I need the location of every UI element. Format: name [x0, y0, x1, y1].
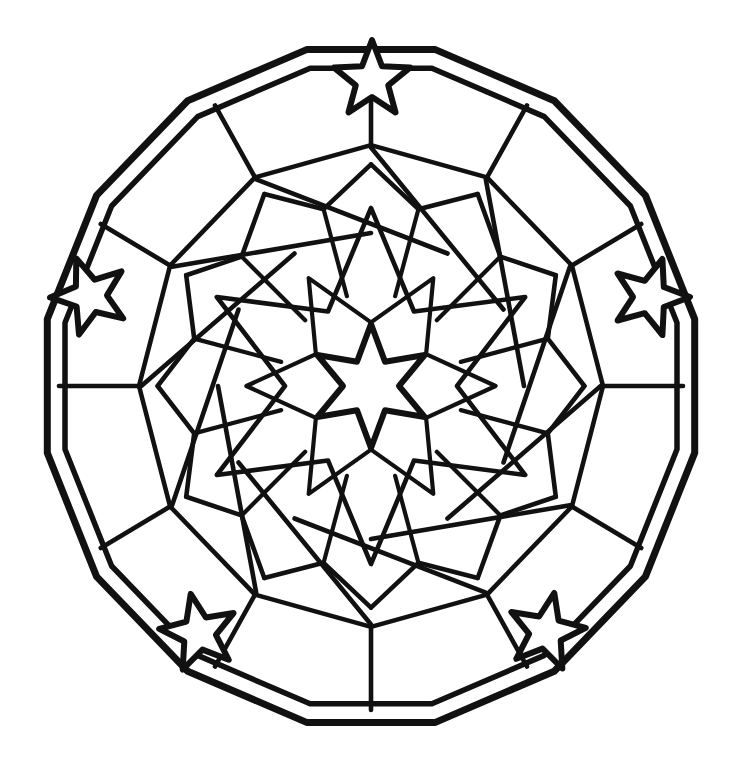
- mandala-artwork: [0, 0, 742, 783]
- coloring-page-canvas: [0, 0, 742, 783]
